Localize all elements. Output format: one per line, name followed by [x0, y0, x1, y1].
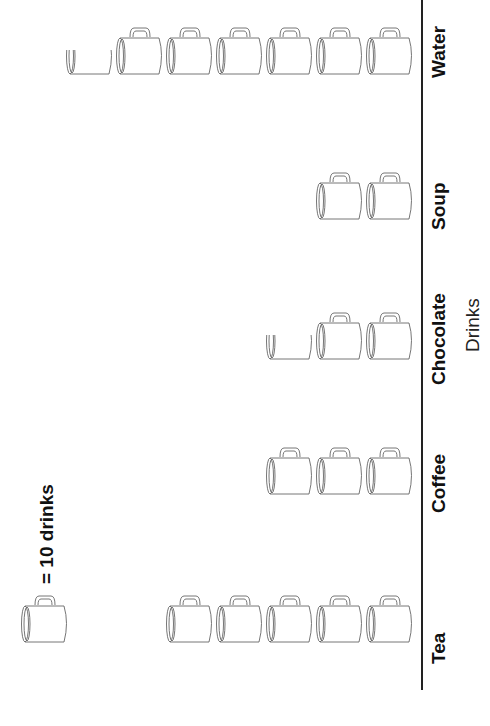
category-axis-line: [421, 0, 423, 690]
mug-icon: [365, 310, 415, 360]
mug-icon: [265, 593, 315, 643]
category-label-chocolate: Chocolate: [428, 293, 450, 385]
mug-icon: [215, 25, 265, 75]
mug-icon: [315, 170, 365, 220]
category-label-soup: Soup: [428, 183, 450, 231]
partial-mug-icon: [265, 335, 315, 360]
mug-icon: [165, 25, 215, 75]
mug-icon: [365, 593, 415, 643]
category-label-tea: Tea: [428, 633, 450, 664]
mug-icon: [315, 25, 365, 75]
legend-label: = 10 drinks: [36, 484, 58, 584]
mug-icon: [115, 25, 165, 75]
partial-mug-icon: [65, 50, 115, 75]
axis-title: Drinks: [462, 298, 484, 352]
mug-icon: [215, 593, 265, 643]
category-label-water: Water: [428, 26, 450, 78]
mug-icon: [365, 445, 415, 495]
mug-icon: [365, 25, 415, 75]
mug-icon: [265, 25, 315, 75]
mug-icon: [315, 310, 365, 360]
mug-icon: [315, 445, 365, 495]
mug-icon: [165, 593, 215, 643]
legend-mug-icon: [20, 593, 70, 643]
category-label-coffee: Coffee: [428, 454, 450, 513]
mug-icon: [265, 445, 315, 495]
mug-icon: [365, 170, 415, 220]
mug-icon: [315, 593, 365, 643]
